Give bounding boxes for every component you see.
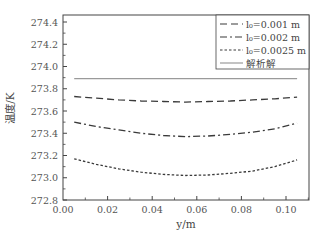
x-axis-title: y/m bbox=[175, 218, 195, 230]
legend-label: l₀=0.002 m bbox=[246, 32, 300, 43]
legend-label: l₀=0.001 m bbox=[246, 19, 300, 30]
y-tick-label: 273.8 bbox=[31, 83, 58, 94]
legend-label: l₀=0.0025 m bbox=[246, 45, 306, 56]
x-axis-ticks: 0.000.020.040.060.080.10 bbox=[52, 196, 308, 215]
x-tick-label: 0.10 bbox=[275, 204, 296, 215]
legend: l₀=0.001 ml₀=0.002 ml₀=0.0025 m解析解 bbox=[216, 15, 309, 69]
x-tick-label: 0.06 bbox=[186, 204, 207, 215]
y-axis-title: 温度/K bbox=[4, 92, 16, 124]
y-tick-label: 273.2 bbox=[31, 150, 58, 161]
y-tick-label: 274.0 bbox=[31, 61, 58, 72]
y-tick-label: 273.0 bbox=[31, 172, 58, 183]
x-tick-label: 0.08 bbox=[231, 204, 252, 215]
y-tick-label: 273.4 bbox=[31, 128, 58, 139]
y-tick-label: 274.4 bbox=[31, 17, 58, 28]
y-tick-label: 274.2 bbox=[31, 39, 58, 50]
series-lines bbox=[74, 79, 297, 176]
series-line bbox=[74, 122, 297, 137]
y-tick-label: 273.6 bbox=[31, 106, 58, 117]
series-line bbox=[74, 159, 297, 176]
x-tick-label: 0.00 bbox=[52, 204, 73, 215]
series-line bbox=[74, 97, 297, 103]
x-tick-label: 0.04 bbox=[142, 204, 163, 215]
line-chart: 272.8273.0273.2273.4273.6273.8274.0274.2… bbox=[0, 0, 325, 247]
x-tick-label: 0.02 bbox=[97, 204, 118, 215]
y-axis-ticks: 272.8273.0273.2273.4273.6273.8274.0274.2… bbox=[31, 17, 67, 206]
legend-label: 解析解 bbox=[246, 58, 276, 69]
